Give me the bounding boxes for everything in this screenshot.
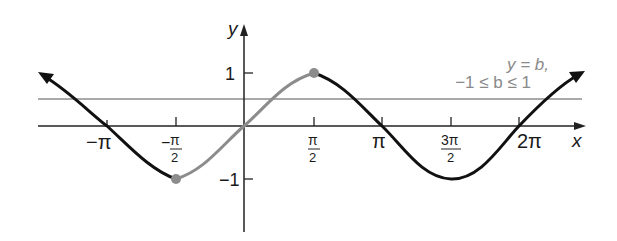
x-tick-neg-pi2-num: π (170, 132, 180, 148)
line-b-label: y = b, (506, 55, 549, 74)
y-axis-label: y (226, 18, 239, 39)
x-axis-label: x (571, 130, 583, 151)
x-tick-pi2-den: 2 (309, 150, 316, 165)
x-tick-neg-pi: −π (86, 131, 111, 153)
right-arrow-icon (569, 71, 585, 83)
y-axis-arrow-icon (240, 24, 248, 36)
x-tick-neg-pi2-sign: − (161, 134, 170, 151)
line-b-constraint: −1 ≤ b ≤ 1 (455, 73, 531, 92)
endpoint-max (309, 68, 319, 78)
x-axis-arrow-icon (574, 122, 586, 130)
x-tick-neg-pi2-den: 2 (171, 150, 178, 165)
x-tick-3pi2-den: 2 (447, 150, 454, 165)
y-tick-1: 1 (225, 64, 235, 84)
x-tick-pi2-num: π (308, 132, 318, 148)
x-tick-3pi2-num: 3π (441, 132, 459, 148)
x-tick-2pi: 2π (517, 130, 542, 152)
sine-curve-left (44, 76, 176, 179)
sine-graph: y x 1 −1 −π − π 2 π 2 π 3π 2 2π y = b, −… (0, 0, 617, 241)
endpoint-min (171, 174, 181, 184)
x-ticks (107, 117, 519, 126)
x-tick-pi: π (372, 130, 386, 152)
y-tick-neg1: −1 (219, 170, 240, 190)
